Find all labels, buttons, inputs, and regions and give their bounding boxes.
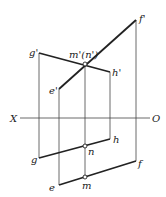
label-e: e <box>49 182 55 193</box>
label-h-prime: h' <box>112 67 121 78</box>
line-gh-top <box>39 139 110 158</box>
label-g-prime: g' <box>29 47 38 58</box>
line-ef-top <box>59 161 136 185</box>
label-e-prime: e' <box>49 85 58 96</box>
label-o-axis: O <box>152 113 160 124</box>
label-n: n <box>88 146 94 157</box>
label-x-axis: X <box>9 113 18 124</box>
label-h: h <box>113 134 119 145</box>
label-m-prime-n-prime: m'(n') <box>69 49 98 60</box>
point-m <box>83 175 87 179</box>
label-m: m <box>82 180 91 191</box>
label-g: g <box>31 154 37 165</box>
point-n <box>83 144 87 148</box>
label-f-prime: f' <box>138 13 145 24</box>
diagram-svg: f' g' m'(n') h' e' X O h n g f m e <box>0 0 166 197</box>
projection-diagram: f' g' m'(n') h' e' X O h n g f m e <box>0 0 166 197</box>
label-f: f <box>137 158 144 169</box>
point-m-prime <box>83 62 87 66</box>
